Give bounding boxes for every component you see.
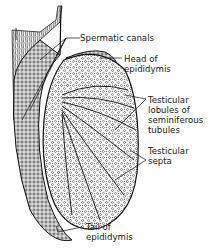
label-head-of-epididymis: Head of epididymis: [124, 54, 171, 74]
label-spermatic-canals: Spermatic canals: [80, 33, 154, 43]
testis: [43, 54, 138, 229]
label-testicular-septa: Testicular septa: [148, 146, 189, 166]
label-testicular-lobules: Testicular lobules of seminiferous tubul…: [148, 95, 203, 135]
label-tail-of-epididymis: Tail of epididymis: [86, 222, 133, 242]
